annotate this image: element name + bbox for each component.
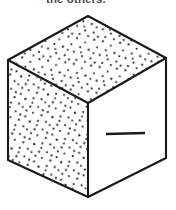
cube-drawing <box>0 0 176 210</box>
figure-caption: the others. <box>46 0 106 5</box>
right-face-dash-mark <box>106 133 145 134</box>
caption-strip: the others. <box>0 0 176 9</box>
figure-root: the others. <box>0 0 176 210</box>
